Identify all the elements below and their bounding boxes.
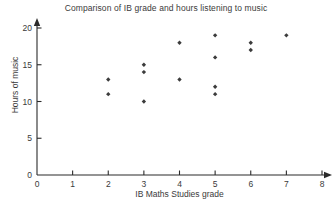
data-point: [177, 41, 181, 45]
plot-area: 01234567805101520: [0, 0, 332, 210]
x-tick-label: 6: [248, 179, 253, 189]
x-tick-label: 7: [284, 179, 289, 189]
y-axis-arrow: [34, 18, 40, 26]
data-points-group: [106, 33, 289, 104]
scatter-chart: Comparison of IB grade and hours listeni…: [0, 0, 332, 210]
axes-group: [34, 18, 332, 178]
data-point: [213, 92, 217, 96]
data-point: [213, 85, 217, 89]
data-point: [249, 41, 253, 45]
data-point: [284, 33, 288, 37]
y-tick-label: 0: [27, 170, 32, 180]
x-tick-label: 3: [142, 179, 147, 189]
y-tick-label: 5: [27, 133, 32, 143]
x-tick-label: 1: [70, 179, 75, 189]
data-point: [142, 99, 146, 103]
data-point: [213, 55, 217, 59]
y-tick-label: 20: [23, 23, 33, 33]
data-point: [213, 33, 217, 37]
x-tick-label: 2: [106, 179, 111, 189]
data-point: [177, 77, 181, 81]
data-point: [142, 70, 146, 74]
ticks-group: 01234567805101520: [23, 23, 325, 189]
x-axis-arrow: [324, 172, 332, 178]
x-tick-label: 5: [213, 179, 218, 189]
data-point: [249, 48, 253, 52]
x-tick-label: 8: [320, 179, 325, 189]
x-tick-label: 4: [177, 179, 182, 189]
y-tick-label: 15: [23, 60, 33, 70]
y-tick-label: 10: [23, 97, 33, 107]
data-point: [142, 63, 146, 67]
data-point: [106, 92, 110, 96]
data-point: [106, 77, 110, 81]
x-tick-label: 0: [35, 179, 40, 189]
